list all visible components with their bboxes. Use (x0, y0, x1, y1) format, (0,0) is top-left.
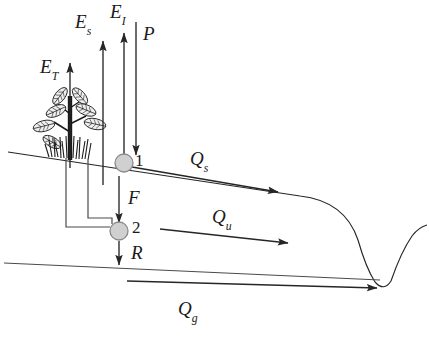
diagram-canvas (0, 0, 429, 338)
interception-evaporation-label: EI (110, 2, 126, 26)
groundwater-flow-label: Qg (178, 299, 198, 323)
infiltration-label: F (128, 188, 140, 212)
transpiration-base: E (40, 56, 52, 77)
groundwater-flow-base: Q (178, 298, 192, 319)
unsaturated-flow-sub: u (226, 220, 232, 233)
transpiration-sub: T (52, 70, 59, 83)
node-one-label: 1 (135, 152, 144, 169)
water-table-line (4, 263, 380, 280)
soil-evaporation-base: E (75, 11, 87, 32)
interception-evaporation-sub: I (122, 15, 126, 28)
precipitation-base: P (143, 23, 155, 44)
soil-evaporation-label: Es (75, 12, 91, 36)
groundwater-flow-sub: g (192, 312, 198, 325)
root-uptake-connectors (66, 158, 112, 227)
recharge-base: R (131, 242, 143, 263)
soil-evaporation-sub: s (87, 25, 92, 38)
infiltration-base: F (128, 187, 140, 208)
surface-store-node[interactable] (115, 154, 133, 172)
unsaturated-flow-base: Q (212, 206, 226, 227)
surface-runoff-sub: s (204, 162, 209, 175)
unsaturated-flow-arrow (160, 229, 288, 243)
subsurface-store-node[interactable] (110, 222, 128, 240)
precipitation-label: P (143, 24, 155, 48)
hydrology-diagram: ET Es EI P F R Qs Qu Qg 1 2 (0, 0, 429, 338)
groundwater-flow-arrow (127, 281, 377, 288)
node-two-label: 2 (132, 219, 141, 236)
interception-evaporation-base: E (110, 1, 122, 22)
unsaturated-flow-label: Qu (212, 207, 232, 231)
transpiration-label: ET (40, 57, 58, 81)
surface-runoff-base: Q (190, 148, 204, 169)
recharge-label: R (131, 243, 143, 267)
surface-runoff-label: Qs (190, 149, 208, 173)
